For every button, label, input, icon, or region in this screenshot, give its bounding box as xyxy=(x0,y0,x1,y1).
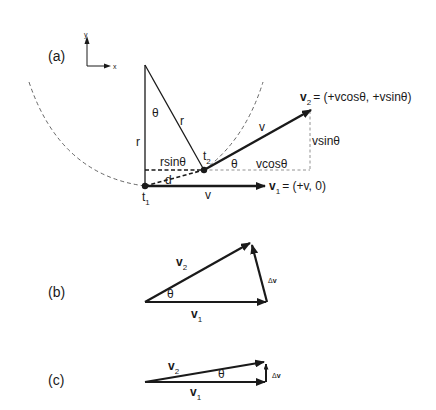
c-theta-label: θ xyxy=(218,367,225,381)
b-delta-v-label: Δv xyxy=(268,277,277,284)
rsin-label: rsinθ xyxy=(160,155,186,169)
axes-icon: y x xyxy=(84,31,117,70)
vcos-label: vcosθ xyxy=(256,157,288,171)
theta-t2-label: θ xyxy=(231,157,238,171)
c-v1-label: v1 xyxy=(190,385,202,402)
b-theta-label: θ xyxy=(167,287,174,301)
point-t1 xyxy=(142,183,148,189)
b-v1-label: v1 xyxy=(191,307,203,324)
c-v2-arrow xyxy=(145,362,264,382)
panel-a: (a) y x θ xyxy=(29,31,412,207)
v2-equation: v2= (+vcosθ, +vsinθ) xyxy=(300,90,412,107)
t1-label: t1 xyxy=(142,190,150,207)
panel-c: (c) θ v2 v1 Δv xyxy=(48,359,281,402)
c-v2-label: v2 xyxy=(168,359,180,376)
point-t2 xyxy=(201,167,207,173)
theta-top-label: θ xyxy=(152,106,159,120)
v1-equation: v1= (+v, 0) xyxy=(269,179,326,196)
c-delta-v-label: Δv xyxy=(272,372,281,379)
panel-b: (b) θ v2 v1 Δv xyxy=(48,243,277,324)
panel-b-label: (b) xyxy=(48,284,65,300)
y-axis-label: y xyxy=(84,31,88,39)
b-v2-arrow xyxy=(145,243,250,302)
panel-c-label: (c) xyxy=(48,372,64,388)
r-slanted-label: r xyxy=(180,114,184,128)
x-axis-label: x xyxy=(113,63,117,70)
v2-magnitude-label: v xyxy=(259,120,265,134)
r-vertical-label: r xyxy=(136,135,140,149)
b-v2-label: v2 xyxy=(176,255,188,272)
v1-magnitude-label: v xyxy=(205,188,211,202)
chord-d-dashed-line xyxy=(145,170,204,186)
circular-path-left xyxy=(29,82,145,186)
d-label: d xyxy=(165,173,172,187)
t2-label: t2 xyxy=(203,149,211,166)
velocity-diagram: (a) y x θ xyxy=(0,0,436,410)
b-delta-v-arrow xyxy=(252,245,267,302)
vsin-label: vsinθ xyxy=(312,134,340,148)
panel-a-label: (a) xyxy=(48,48,65,64)
